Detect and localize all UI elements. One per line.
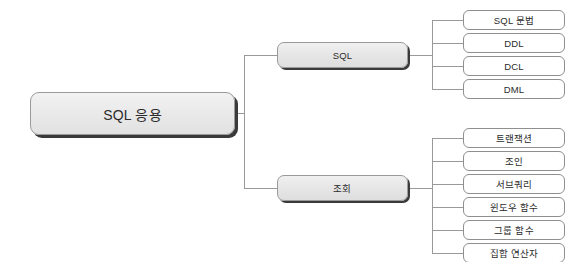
node-leaf[interactable]: 조인 (463, 151, 565, 171)
node-leaf-label: 집합 연산자 (490, 246, 539, 260)
node-leaf-label: DDL (504, 38, 524, 49)
sql-mindmap-diagram: SQL 응용 SQL 조회 SQL 문법DDLDCLDML트랜잭션조인서브쿼리윈… (0, 0, 580, 262)
node-root-label: SQL 응용 (103, 104, 162, 124)
node-branch-query-label: 조회 (333, 181, 351, 195)
node-root[interactable]: SQL 응용 (30, 92, 235, 135)
node-leaf[interactable]: DCL (463, 56, 565, 76)
node-branch-sql[interactable]: SQL (277, 42, 408, 68)
node-leaf[interactable]: SQL 문법 (463, 10, 565, 30)
node-leaf-label: 조인 (505, 154, 523, 168)
node-leaf-label: 서브쿼리 (496, 177, 533, 191)
node-leaf[interactable]: 서브쿼리 (463, 174, 565, 194)
node-branch-sql-label: SQL (333, 50, 353, 61)
node-leaf-label: 트랜잭션 (496, 131, 533, 145)
node-leaf-label: 그룹 함수 (494, 223, 534, 237)
node-leaf[interactable]: 그룹 함수 (463, 220, 565, 240)
node-leaf-label: DCL (504, 61, 524, 72)
node-leaf[interactable]: 집합 연산자 (463, 243, 565, 262)
node-leaf[interactable]: 트랜잭션 (463, 128, 565, 148)
node-leaf[interactable]: DDL (463, 33, 565, 53)
node-branch-query[interactable]: 조회 (277, 175, 408, 201)
node-leaf[interactable]: 윈도우 함수 (463, 197, 565, 217)
node-leaf-label: DML (504, 84, 525, 95)
node-leaf[interactable]: DML (463, 79, 565, 99)
node-leaf-label: 윈도우 함수 (490, 200, 539, 214)
node-leaf-label: SQL 문법 (494, 13, 535, 27)
